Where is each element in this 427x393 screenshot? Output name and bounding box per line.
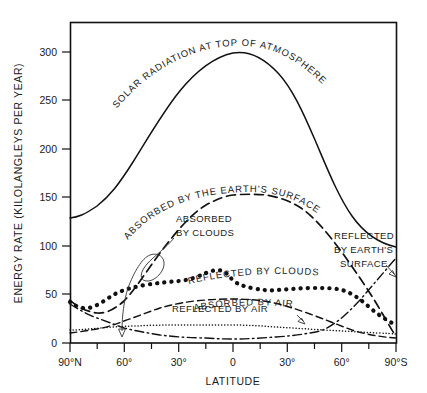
radiation-budget-chart: 300 250 200 150 100 50 0 90°N 60° bbox=[0, 0, 427, 393]
y-tick-label-300: 300 bbox=[39, 46, 57, 58]
x-axis-title: LATITUDE bbox=[206, 375, 261, 387]
label-reflected-by-clouds: REFLECTED BY CLOUDS bbox=[187, 265, 320, 286]
series-solar-radiation-at-top-of-atmosphere bbox=[70, 52, 396, 247]
x-axis-tick-labels: 90°N 60° 30° 0 30° 60° 90°S bbox=[58, 356, 407, 368]
x-axis-ticks bbox=[70, 343, 396, 352]
x-tick-label-30N: 30° bbox=[171, 356, 187, 368]
label-reflected-earth-surface-line1: REFLECTED bbox=[334, 230, 394, 241]
y-tick-label-0: 0 bbox=[51, 337, 57, 349]
y-axis-tick-labels: 300 250 200 150 100 50 0 bbox=[39, 46, 57, 349]
x-tick-label-90S: 90°S bbox=[385, 356, 408, 368]
label-absorbed-by-clouds-line1: ABSORBED bbox=[176, 213, 232, 224]
y-tick-label-100: 100 bbox=[39, 240, 57, 252]
x-tick-label-60S: 60° bbox=[334, 356, 350, 368]
chart-canvas: 300 250 200 150 100 50 0 90°N 60° bbox=[0, 0, 427, 393]
label-absorbed-by-clouds-line2: BY CLOUDS bbox=[176, 227, 234, 238]
label-reflected-by-earths-surface: REFLECTED BY EARTH'S SURFACE bbox=[334, 230, 396, 277]
reflected-earth-surface-arrowhead bbox=[389, 271, 396, 277]
y-tick-label-250: 250 bbox=[39, 94, 57, 106]
x-tick-label-30S: 30° bbox=[279, 356, 295, 368]
x-tick-label-90N: 90°N bbox=[58, 356, 81, 368]
x-tick-label-60N: 60° bbox=[116, 356, 132, 368]
label-reflected-by-clouds-text: REFLECTED BY CLOUDS bbox=[187, 265, 320, 286]
y-axis-title: ENERGY RATE (KILOLANGLEYS PER YEAR) bbox=[12, 63, 24, 303]
y-tick-label-150: 150 bbox=[39, 191, 57, 203]
label-reflected-earth-surface-line2: BY EARTH'S bbox=[334, 244, 393, 255]
label-reflected-by-air-text: REFLECTED BY AIR bbox=[172, 303, 268, 314]
x-tick-label-0: 0 bbox=[230, 356, 236, 368]
y-tick-label-200: 200 bbox=[39, 143, 57, 155]
y-tick-label-50: 50 bbox=[45, 288, 57, 300]
label-reflected-earth-surface-line3: SURFACE bbox=[340, 258, 388, 269]
y-axis-ticks bbox=[62, 52, 70, 343]
